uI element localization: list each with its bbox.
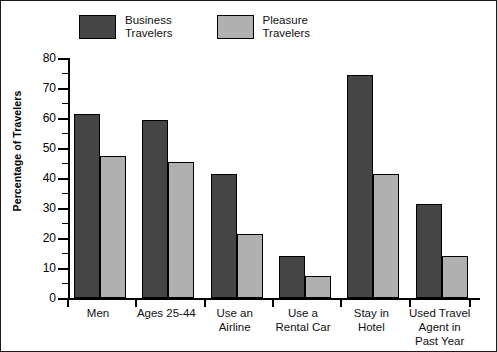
y-tick-mark	[58, 208, 68, 210]
y-tick-mark	[58, 58, 68, 60]
bar-business	[347, 75, 373, 299]
x-axis-label: Use an Airline	[201, 306, 269, 334]
y-tick-label: 40	[43, 171, 56, 185]
bar-group	[279, 58, 331, 298]
y-tick-label: 0	[49, 291, 56, 305]
y-tick-label: 60	[43, 111, 56, 125]
bar-group	[74, 58, 126, 298]
legend-swatch-business-icon	[79, 15, 116, 39]
y-tick-mark	[58, 88, 68, 90]
y-axis-title-text: Percentage of Travelers	[11, 91, 23, 212]
x-axis-line	[68, 298, 480, 300]
x-axis-label: Ages 25-44	[132, 306, 200, 320]
y-tick-label: 10	[43, 261, 56, 275]
y-minor-tick-mark	[62, 193, 68, 194]
y-axis-title: Percentage of Travelers	[6, 1, 28, 301]
x-axis-labels: MenAges 25-44Use an AirlineUse a Rental …	[68, 306, 480, 350]
bar-business	[416, 204, 442, 299]
y-minor-tick-mark	[62, 253, 68, 254]
bar-pleasure	[237, 234, 263, 299]
bar-group	[211, 58, 263, 298]
y-minor-tick-mark	[62, 73, 68, 74]
y-tick-mark	[58, 178, 68, 180]
legend-label-business: Business Travelers	[125, 14, 173, 40]
legend-swatch-pleasure-icon	[217, 15, 254, 39]
y-tick-label: 30	[43, 201, 56, 215]
bar-business	[142, 120, 168, 299]
bar-group	[142, 58, 194, 298]
y-tick-mark	[58, 118, 68, 120]
bar-pleasure	[373, 174, 399, 299]
bar-pleasure	[100, 156, 126, 299]
bar-business	[211, 174, 237, 299]
bar-pleasure	[168, 162, 194, 299]
x-axis-label: Use a Rental Car	[269, 306, 337, 334]
bar-group	[347, 58, 399, 298]
y-tick-label: 80	[43, 51, 56, 65]
x-axis-label: Used Travel Agent in Past Year	[406, 306, 474, 348]
legend-item-pleasure: Pleasure Travelers	[217, 14, 311, 40]
bar-pleasure	[442, 256, 468, 298]
y-tick-label: 70	[43, 81, 56, 95]
y-tick-mark	[58, 238, 68, 240]
plot-area: 01020304050607080	[68, 58, 480, 298]
y-minor-tick-mark	[62, 283, 68, 284]
bar-pleasure	[305, 276, 331, 299]
legend-item-business: Business Travelers	[79, 14, 173, 40]
y-tick-label: 50	[43, 141, 56, 155]
legend-label-pleasure: Pleasure Travelers	[263, 14, 311, 40]
y-minor-tick-mark	[62, 103, 68, 104]
bar-series-container	[70, 58, 480, 298]
y-minor-tick-mark	[62, 133, 68, 134]
y-tick-mark	[58, 148, 68, 150]
y-tick-label: 20	[43, 231, 56, 245]
bar-business	[279, 256, 305, 298]
chart-legend: Business Travelers Pleasure Travelers	[79, 14, 310, 40]
y-tick-mark	[58, 268, 68, 270]
bar-business	[74, 114, 100, 299]
bar-group	[416, 58, 468, 298]
chart-figure: Business Travelers Pleasure Travelers Pe…	[0, 0, 497, 352]
y-minor-tick-mark	[62, 163, 68, 164]
x-axis-label: Men	[64, 306, 132, 320]
y-minor-tick-mark	[62, 223, 68, 224]
x-axis-label: Stay in Hotel	[337, 306, 405, 334]
